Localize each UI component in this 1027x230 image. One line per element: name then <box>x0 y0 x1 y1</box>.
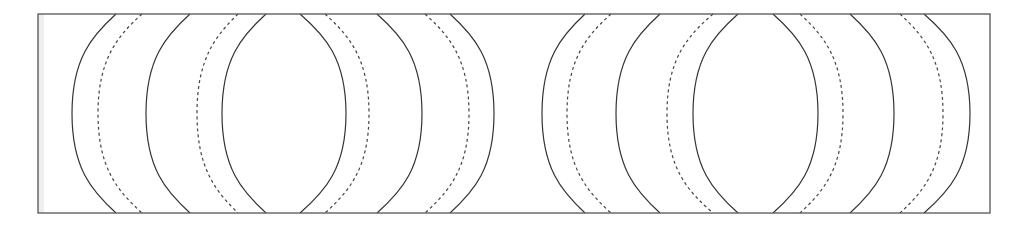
wavefront-diagram <box>0 0 1027 230</box>
frame-left-shading <box>38 14 44 213</box>
background <box>0 0 1027 230</box>
diagram-canvas <box>0 0 1027 230</box>
